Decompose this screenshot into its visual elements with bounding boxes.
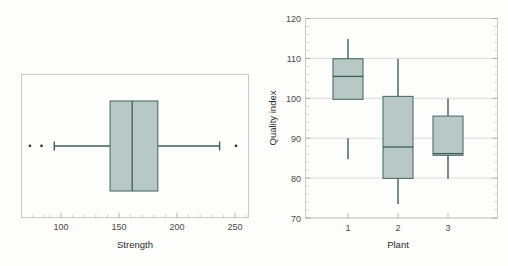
x-axis-title: Plant: [387, 239, 409, 250]
strength-boxplot-chart: 100 150 200 250 Strength: [0, 0, 262, 266]
boxplot-box: [110, 101, 158, 191]
x-tick-label: 150: [111, 222, 126, 232]
x-tick-label: 200: [169, 222, 184, 232]
x-tick-label: 2: [395, 223, 400, 233]
box-plant-1: [333, 39, 363, 159]
box-plant-3: [433, 98, 463, 179]
x-tick-label: 250: [227, 222, 242, 232]
y-tick-label: 100: [286, 94, 301, 104]
x-axis-tick-labels: 100 150 200 250: [53, 222, 242, 232]
x-axis-tick-labels: 1 2 3: [345, 223, 450, 233]
box-body: [433, 116, 463, 155]
y-tick-label: 70: [291, 214, 301, 224]
y-tick-label: 90: [291, 134, 301, 144]
y-axis-title: Quality index: [267, 90, 278, 145]
y-tick-label: 110: [287, 54, 301, 64]
box-plant-2: [383, 59, 413, 204]
x-tick-label: 100: [53, 222, 68, 232]
y-tick-label: 120: [286, 14, 301, 24]
x-tick-label: 3: [445, 223, 450, 233]
x-tick-label: 1: [345, 223, 350, 233]
x-axis-ticks: [348, 213, 448, 218]
box-body: [333, 59, 363, 100]
x-axis-major-ticks: [61, 213, 235, 218]
boxplot-figure-pair: 100 150 200 250 Strength: [0, 0, 508, 266]
box-body: [383, 96, 413, 178]
y-axis-tick-labels: 120 110 100 90 80 70: [286, 14, 301, 224]
y-tick-label: 80: [291, 174, 301, 184]
quality-index-boxplot-chart: 120 110 100 90 80 70 1 2 3 Plant Quality…: [262, 0, 508, 266]
x-axis-title: Strength: [117, 239, 153, 250]
